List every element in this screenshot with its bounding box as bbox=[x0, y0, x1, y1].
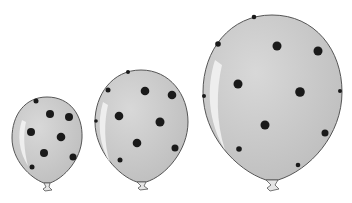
small-balloon-knot bbox=[43, 183, 52, 191]
large-balloon bbox=[202, 15, 342, 191]
medium-balloon bbox=[94, 70, 188, 190]
small-balloon bbox=[12, 97, 82, 191]
medium-balloon-knot bbox=[137, 182, 148, 190]
balloons-illustration bbox=[0, 0, 352, 203]
large-balloon-knot bbox=[266, 180, 279, 191]
